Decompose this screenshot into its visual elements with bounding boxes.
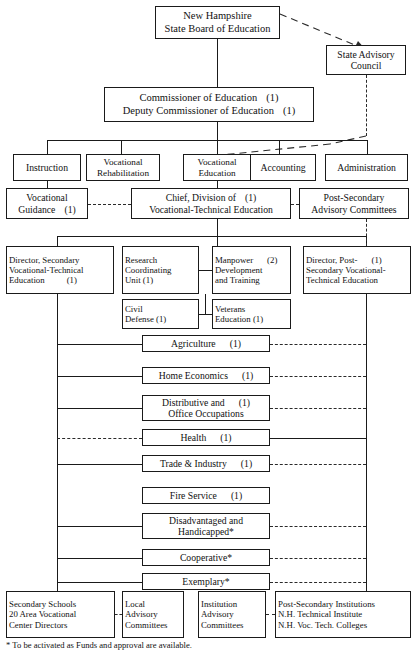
node-program-home_ec[interactable]: Home Economics(1) [142,367,270,384]
footnote: * To be activated as Funds and approval … [6,641,192,650]
state-board-line1: New Hampshire [158,10,277,22]
connector-instadv-to-postinst [266,614,275,615]
node-civil-defense[interactable]: Civil Defense (1) [122,299,199,329]
postinst-line3: N.H. Voc. Tech. Colleges [278,620,408,630]
dirsec-line3: Education(1) [9,275,111,285]
org-chart-canvas: New Hampshire State Board of Education S… [0,0,417,653]
guidance-line1: Vocational [9,192,85,203]
research-line1: Research [125,255,196,265]
program-health-line1: Health(1) [145,432,267,443]
node-institution-advisory-committees[interactable]: Institution Advisory Committees [198,591,266,638]
dirsec-line1: Director, Secondary [9,255,111,265]
node-secondary-schools[interactable]: Secondary Schools 20 Area Vocational Cen… [6,591,115,638]
dirpost-line1: Director, Post-(1) [306,255,408,265]
connector-right-disadvantaged [270,526,366,527]
connector-guidance-to-chief [88,204,131,205]
connector-chief-to-postsecadv [291,204,299,205]
vocrehab-line1: Vocational [89,157,157,168]
connector-right-health [270,438,366,439]
node-program-cooperative[interactable]: Cooperative* [142,549,270,566]
connector-manpower-spine [205,294,206,314]
dirpost-line3: Technical Education [306,275,408,285]
connector-left-exemplary [57,582,142,583]
connector-bus-voced [217,140,218,154]
connector-right-trade [270,464,366,465]
commissioner-line1: Commissioner of Education(1) [107,92,311,104]
program-disadvantaged-line1: Disadvantaged and [145,515,267,526]
connector-right-distributive [270,408,366,409]
trunk-right-postsecondary [366,294,367,591]
node-program-fire[interactable]: Fire Service(1) [142,487,270,504]
manpower-line2: Development [215,265,288,275]
node-director-postsecondary[interactable]: Director, Post-(1) Secondary Vocational-… [303,246,411,294]
connector-board-to-commissioner [217,39,218,87]
voced-line1: Vocational [186,157,248,168]
node-instruction[interactable]: Instruction [13,154,81,181]
node-vocational-rehabilitation[interactable]: Vocational Rehabilitation [86,154,160,181]
commissioner-line2: Deputy Commissioner of Education(1) [107,105,311,117]
secschools-line2: 20 Area Vocational [9,609,112,619]
node-director-secondary[interactable]: Director, Secondary Vocational-Technical… [6,246,114,294]
node-research-coordinating-unit[interactable]: Research Coordinating Unit (1) [122,246,199,294]
node-program-disadvantaged[interactable]: Disadvantaged andHandicapped* [142,513,270,539]
node-local-advisory-committees[interactable]: Local Advisory Committees [122,591,184,638]
connector-bus-instruction [47,140,48,154]
node-vocational-guidance[interactable]: Vocational Guidance(1) [6,188,88,219]
program-home_ec-line1: Home Economics(1) [145,370,267,381]
node-program-agriculture[interactable]: Agriculture(1) [142,335,270,352]
node-state-board[interactable]: New Hampshire State Board of Education [155,6,280,39]
connector-left-trade [57,464,142,465]
connector-secschools-to-localadv [115,614,122,615]
manpower-line1: Manpower(2) [215,255,288,265]
accounting-label: Accounting [253,162,313,173]
postsecadv-line1: Post-Secondary [302,192,406,203]
instruction-label: Instruction [16,162,78,173]
vocrehab-line2: Rehabilitation [89,168,157,179]
dirsec-line2: Vocational-Technical [9,265,111,275]
instadv-line1: Institution [201,599,263,609]
program-cooperative-line1: Cooperative* [145,552,267,563]
state-board-line2: State Board of Education [158,23,277,35]
connector-bus-manpower [217,236,218,246]
node-commissioner[interactable]: Commissioner of Education(1) Deputy Comm… [104,87,314,122]
connector-left-disadvantaged [57,526,142,527]
node-program-health[interactable]: Health(1) [142,429,270,446]
node-program-distributive[interactable]: Distributive and(1)Office Occupations [142,395,270,421]
node-veterans-education[interactable]: Veterans Education (1) [212,299,291,329]
research-line2: Coordinating [125,265,196,275]
node-program-exemplary[interactable]: Exemplary* [142,573,270,590]
localadv-line2: Advisory [125,609,181,619]
division-bus [47,140,367,141]
connector-postsecadv-down [366,219,367,246]
instadv-line2: Advisory [201,609,263,619]
connector-bus-accounting [279,140,280,154]
node-chief-division[interactable]: Chief, Division of(1) Vocational-Technic… [131,188,291,219]
node-post-secondary-advisory-committees[interactable]: Post-Secondary Advisory Committees [299,188,409,219]
node-program-trade[interactable]: Trade & Industry(1) [142,455,270,472]
connector-left-agriculture [57,344,142,345]
node-vocational-education[interactable]: Vocational Education [183,154,251,181]
node-administration[interactable]: Administration [325,154,408,181]
node-manpower-development[interactable]: Manpower(2) Development and Training [212,246,291,294]
localadv-line3: Committees [125,620,181,630]
secschools-line1: Secondary Schools [9,599,112,609]
connector-bus-administration [367,140,368,154]
node-post-secondary-institutions[interactable]: Post-Secondary Institutions N.H. Technic… [275,591,411,638]
connector-right-cooperative [270,558,366,559]
trunk-left-secondary [57,294,58,591]
manpower-line3: and Training [215,275,288,285]
postinst-line1: Post-Secondary Institutions [278,599,408,609]
program-trade-line1: Trade & Industry(1) [145,458,267,469]
voced-line2: Education [186,168,248,179]
program-disadvantaged-line2: Handicapped* [145,526,267,537]
node-accounting[interactable]: Accounting [250,154,316,181]
chief-line2: Vocational-Technical Education [134,204,288,215]
postsecadv-line2: Advisory Committees [302,204,406,215]
veterans-line1: Veterans [215,304,288,314]
connector-left-health [57,438,142,439]
connector-advisory-to-voced [210,118,370,158]
advisory-line2: Council [329,60,403,71]
director-bus [57,236,366,237]
node-state-advisory-council[interactable]: State Advisory Council [326,45,406,75]
connector-right-exemplary [270,582,366,583]
